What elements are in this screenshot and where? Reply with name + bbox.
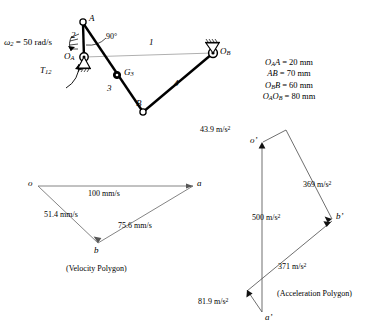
acceleration-edge-label-81-9: 81.9 m/s2 [198, 297, 228, 307]
velocity-polygon-caption: (Velocity Polygon) [66, 265, 127, 273]
velocity-vertex-label-a: a [197, 179, 202, 188]
dimension-line-OAA: OAA = 20 mm [243, 57, 335, 68]
torque-label-T12: T12 [40, 66, 51, 76]
joint-label-B: B [136, 99, 142, 108]
input-speed-label: ω2 = 50 rad/s [4, 38, 52, 48]
acceleration-edge-label-371: 371 m/s2 [278, 262, 306, 272]
link-number-2: 2 [71, 31, 76, 40]
mechanism-group [66, 19, 220, 115]
velocity-edge-label-ba: 75.6 mm/s [118, 222, 152, 230]
link-number-4: 4 [174, 79, 179, 88]
velocity-vertex-label-o: o [28, 179, 33, 188]
joint-B-pin [140, 109, 146, 115]
acceleration-edge-369 [286, 130, 332, 219]
acceleration-edge-label-500: 500 m/s2 [252, 213, 280, 223]
joint-label-G3: G3 [124, 68, 134, 78]
figure-vector-layer [0, 0, 372, 334]
acceleration-edge-label-369: 369 m/s2 [303, 180, 331, 190]
velocity-edge-label-ob: 51.4 mm/s [44, 211, 78, 219]
acceleration-vertex-label-a-prime: a’ [265, 313, 273, 322]
acceleration-edge-label-43-9: 43.9 m/s2 [200, 125, 230, 135]
link-2-crank [83, 24, 84, 57]
acceleration-vertex-label-o-prime: o’ [250, 136, 258, 145]
joint-label-OA: OA [64, 52, 74, 62]
ground-pivot-OA [77, 53, 91, 72]
link-number-3: 3 [107, 84, 112, 93]
acceleration-edge-43-9 [263, 130, 286, 142]
angle-label-90deg: 90° [106, 33, 117, 41]
dimensions-block: OAA = 20 mm AB = 70 mm OBB = 60 mm OAOB … [243, 57, 335, 102]
joint-G3-inner [116, 74, 119, 77]
acceleration-vertex-label-b-prime: b’ [336, 212, 344, 221]
dimension-line-OAOB: OAOB = 80 mm [243, 91, 335, 102]
joint-A-pin [80, 19, 86, 25]
acceleration-edge-371 [247, 221, 332, 291]
dimension-line-OBB: OBB = 60 mm [243, 80, 335, 91]
velocity-edge-label-oa: 100 mm/s [88, 190, 120, 198]
joint-label-OB: OB [220, 47, 230, 57]
acceleration-arrow-o-prime [259, 142, 266, 149]
acceleration-polygon-caption: (Acceleration Polygon) [277, 290, 352, 298]
link-number-1: 1 [149, 38, 154, 47]
ground-pivot-OB [205, 39, 220, 57]
dimension-line-AB: AB = 70 mm [243, 68, 335, 79]
figure-canvas: A OA G3 B OB 2 1 3 4 90° ω2 = 50 rad/s T… [0, 0, 372, 334]
joint-label-A: A [89, 14, 95, 23]
velocity-vertex-label-b: b [94, 246, 99, 255]
acceleration-arrow-b-prime-lower [323, 221, 331, 227]
